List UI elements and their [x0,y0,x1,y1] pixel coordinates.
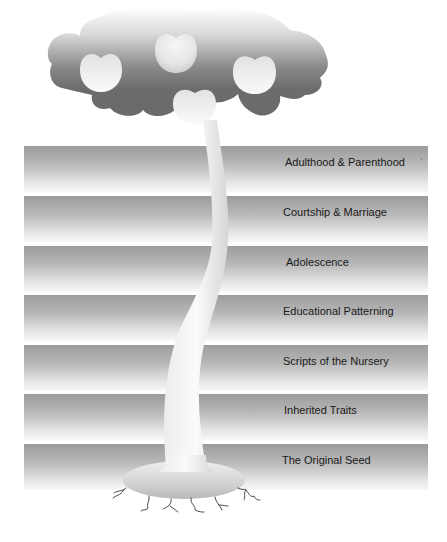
tree-illustration [0,0,447,542]
apple-bottom [173,90,216,124]
seed-base [123,455,245,499]
tree-trunk [164,120,228,468]
